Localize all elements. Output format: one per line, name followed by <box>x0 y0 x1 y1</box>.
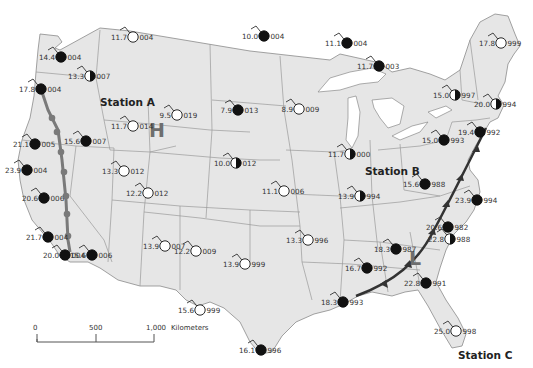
station-temperature: 7.9 <box>221 106 233 115</box>
sky-cover-icon <box>233 105 243 115</box>
sky-cover-icon <box>60 250 70 260</box>
sky-cover-icon <box>128 121 138 131</box>
station-temperature: 23.9 <box>5 166 21 175</box>
station-temperature: 9.5 <box>160 111 171 120</box>
station-pressure: 014 <box>140 122 154 131</box>
station-temperature: 21.7 <box>26 233 42 242</box>
station-pressure: 992 <box>487 128 501 137</box>
station-temperature: 11.1 <box>262 187 278 196</box>
sky-cover-icon <box>256 345 266 355</box>
sky-cover-icon <box>56 52 66 62</box>
station-pressure: 003 <box>386 62 400 71</box>
station-pressure: 006 <box>291 187 305 196</box>
station-b-label: Station B <box>365 165 420 177</box>
station-temperature: 11.7 <box>111 122 127 131</box>
station-pressure: 994 <box>367 192 381 201</box>
station-pressure: 996 <box>315 236 329 245</box>
sky-cover-icon <box>160 241 170 251</box>
station-pressure: 013 <box>245 106 259 115</box>
station-pressure: 009 <box>306 105 320 114</box>
station-temperature: 16.7 <box>345 264 361 273</box>
sky-cover-icon <box>294 104 304 114</box>
station-pressure: 991 <box>433 279 447 288</box>
station-temperature: 14.4 <box>39 53 55 62</box>
sky-cover-icon <box>303 235 313 245</box>
sky-cover-icon <box>439 135 449 145</box>
sky-cover-icon <box>172 110 182 120</box>
station-pressure: 019 <box>184 111 198 120</box>
station-pressure: 004 <box>55 233 69 242</box>
station-temperature: 10.0 <box>214 159 230 168</box>
station-pressure: 004 <box>48 85 62 94</box>
station-pressure: 999 <box>252 260 266 269</box>
station-pressure: 012 <box>155 189 169 198</box>
station-pressure: 009 <box>203 247 217 256</box>
station-temperature: 23.9 <box>455 196 471 205</box>
sky-cover-icon <box>240 259 250 269</box>
sky-cover-icon <box>279 186 289 196</box>
station-pressure: 997 <box>462 91 476 100</box>
station-pressure: 993 <box>350 298 364 307</box>
station-pressure: 004 <box>140 33 154 42</box>
station-temperature: 13.3 <box>286 236 302 245</box>
sky-cover-icon <box>81 136 91 146</box>
station-temperature: 20.0 <box>43 251 59 260</box>
station-temperature: 15.6 <box>64 137 80 146</box>
sky-cover-icon <box>374 61 384 71</box>
station-temperature: 21.1 <box>13 140 29 149</box>
sky-cover-icon <box>362 263 372 273</box>
station-temperature: 10.0 <box>242 32 258 41</box>
station-pressure: 993 <box>451 136 465 145</box>
station-pressure: 007 <box>172 242 186 251</box>
sky-cover-icon <box>451 326 461 336</box>
station-pressure: 987 <box>403 245 417 254</box>
station-temperature: 17.8 <box>479 39 495 48</box>
sky-cover-icon <box>443 222 453 232</box>
sky-cover-icon <box>22 165 32 175</box>
sky-cover-icon <box>475 127 485 137</box>
station-temperature: 11.7 <box>328 150 344 159</box>
station-pressure: 994 <box>484 196 498 205</box>
sky-cover-icon <box>143 188 153 198</box>
station-temperature: 15.0 <box>422 136 438 145</box>
station-temperature: 13.3 <box>102 167 118 176</box>
scale-tick-500: 500 <box>89 324 102 332</box>
station-temperature: 13.3 <box>68 72 84 81</box>
station-temperature: 13.9 <box>143 242 159 251</box>
station-temperature: 20.6 <box>22 194 38 203</box>
station-pressure: 992 <box>374 264 388 273</box>
station-pressure: 988 <box>432 180 446 189</box>
sky-cover-icon <box>421 278 431 288</box>
station-pressure: 007 <box>97 72 111 81</box>
scale-tick-0: 0 <box>33 324 37 332</box>
sky-cover-icon <box>496 38 506 48</box>
station-c-label: Station C <box>458 349 513 361</box>
station-pressure: 996 <box>268 346 282 355</box>
station-pressure: 012 <box>131 167 145 176</box>
station-pressure: 007 <box>93 137 107 146</box>
station-temperature: 25.0 <box>434 327 450 336</box>
sky-cover-icon <box>420 179 430 189</box>
sky-cover-icon <box>259 31 269 41</box>
station-pressure: 998 <box>463 327 477 336</box>
sky-cover-icon <box>119 166 129 176</box>
sky-cover-icon <box>195 305 205 315</box>
station-temperature: 22.8 <box>428 235 444 244</box>
station-temperature: 18.3 <box>374 245 390 254</box>
station-pressure: 004 <box>271 32 285 41</box>
station-a-label: Station A <box>100 96 156 108</box>
station-pressure: 006 <box>51 194 65 203</box>
sky-cover-icon <box>472 195 482 205</box>
station-temperature: 16.1 <box>239 346 255 355</box>
station-temperature: 15.6 <box>70 251 86 260</box>
station-temperature: 11.7 <box>111 33 127 42</box>
station-temperature: 8.9 <box>282 105 294 114</box>
station-temperature: 11.7 <box>357 62 373 71</box>
scale-unit: Kilometers <box>171 324 209 332</box>
sky-cover-icon <box>39 193 49 203</box>
station-temperature: 13.9 <box>223 260 239 269</box>
station-pressure: 006 <box>99 251 113 260</box>
sky-cover-icon <box>128 32 138 42</box>
station-pressure: 000 <box>357 150 371 159</box>
sky-cover-icon <box>36 84 46 94</box>
